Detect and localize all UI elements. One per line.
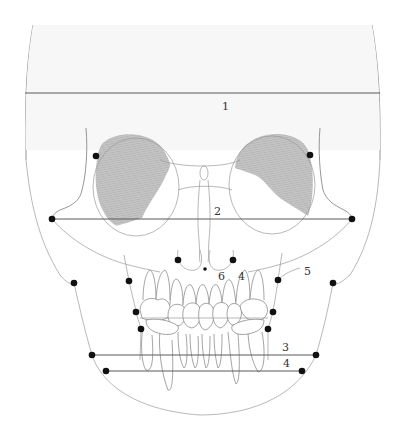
label-2: 2 <box>214 205 221 218</box>
landmark-right-gonion-outer <box>330 280 337 287</box>
label-5: 5 <box>304 265 311 278</box>
landmark-right-maxilla <box>275 277 282 284</box>
landmark-left-zygion-upper <box>93 153 100 160</box>
landmark-left-zygion <box>49 216 56 223</box>
skull-diagram-svg: 1 2 6 4 5 3 4 <box>0 0 401 444</box>
landmark-left-gonion-outer <box>71 280 78 287</box>
temporal-lines <box>26 128 380 284</box>
landmark-left-gonion <box>89 352 96 359</box>
skull-diagram: 1 2 6 4 5 3 4 <box>0 0 401 444</box>
landmark-right-mandible <box>299 368 306 375</box>
landmark-left-nasal-alar <box>175 257 182 264</box>
landmark-left-mandible <box>103 368 110 375</box>
label-1: 1 <box>222 100 229 113</box>
landmark-anterior-nasal-spine <box>203 267 207 271</box>
landmark-right-molar-lower <box>265 326 272 333</box>
landmark-right-zygion <box>349 216 356 223</box>
label-4-upper: 4 <box>238 270 245 283</box>
label-4: 4 <box>283 357 290 370</box>
label-3: 3 <box>282 341 289 354</box>
landmark-left-maxilla <box>126 278 133 285</box>
landmark-right-gonion <box>313 352 320 359</box>
landmark-right-molar-upper <box>270 309 277 316</box>
landmark-right-zygion-upper <box>307 152 314 159</box>
landmark-left-molar-upper <box>133 309 140 316</box>
measurement-curve-5 <box>278 268 300 280</box>
label-6: 6 <box>218 270 225 283</box>
landmark-right-nasal-alar <box>230 257 237 264</box>
landmark-left-molar-lower <box>138 326 145 333</box>
